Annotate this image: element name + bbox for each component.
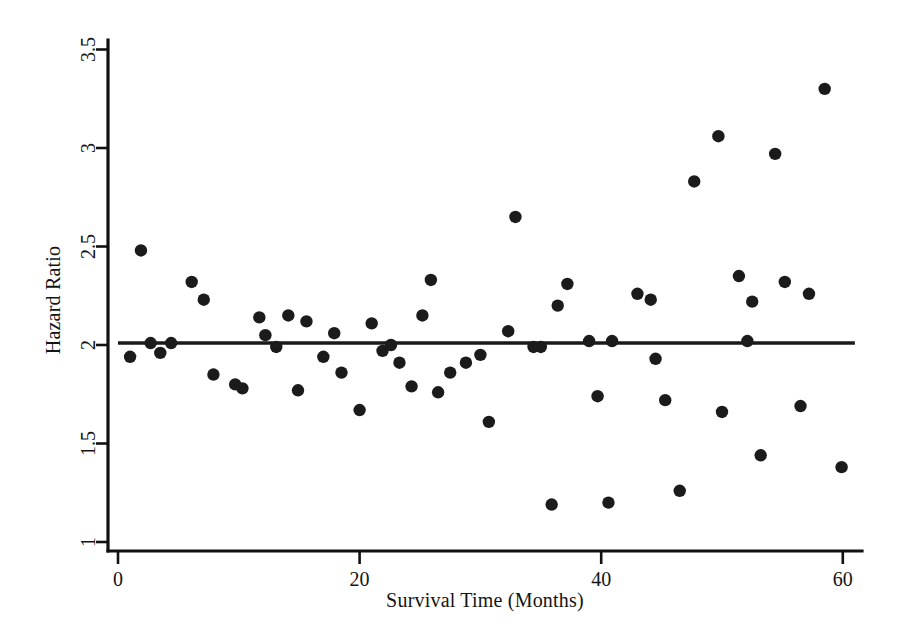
y-tick-label-1: 1 [77, 537, 99, 547]
data-point [416, 309, 428, 321]
data-point [794, 400, 806, 412]
data-point [460, 357, 472, 369]
data-point [365, 317, 377, 329]
data-point [509, 211, 521, 223]
data-point [769, 148, 781, 160]
data-point [835, 461, 847, 473]
data-point [144, 337, 156, 349]
y-axis-ticks: 11.522.533.5 [77, 37, 108, 547]
data-point [545, 498, 557, 510]
x-axis-title: Survival Time (Months) [386, 589, 584, 612]
data-points-group [124, 83, 848, 511]
data-point [282, 309, 294, 321]
data-point [561, 278, 573, 290]
data-point [741, 335, 753, 347]
data-point [754, 449, 766, 461]
data-point [535, 341, 547, 353]
data-point [474, 349, 486, 361]
data-point [733, 270, 745, 282]
data-point [688, 175, 700, 187]
data-point [353, 404, 365, 416]
data-point [393, 357, 405, 369]
data-point [606, 335, 618, 347]
x-tick-label-20: 20 [350, 568, 370, 590]
x-axis-ticks: 0204060 [113, 551, 853, 590]
data-point [236, 382, 248, 394]
data-point [259, 329, 271, 341]
data-point [328, 327, 340, 339]
data-point [425, 274, 437, 286]
data-point [385, 339, 397, 351]
data-point [292, 384, 304, 396]
data-point [602, 496, 614, 508]
data-point [803, 288, 815, 300]
data-point [154, 347, 166, 359]
data-point [165, 337, 177, 349]
data-point [300, 315, 312, 327]
data-point [444, 366, 456, 378]
data-point [432, 386, 444, 398]
data-point [674, 485, 686, 497]
x-tick-label-0: 0 [113, 568, 123, 590]
data-point [317, 351, 329, 363]
data-point [712, 130, 724, 142]
data-point [207, 368, 219, 380]
y-axis-title: Hazard Ratio [42, 246, 64, 354]
y-tick-label-2: 2 [77, 340, 99, 350]
data-point [335, 366, 347, 378]
data-point [818, 83, 830, 95]
data-point [746, 295, 758, 307]
data-point [135, 244, 147, 256]
y-tick-label-1.5: 1.5 [77, 431, 99, 456]
data-point [405, 380, 417, 392]
chart-figure: 11.522.533.5 0204060 Survival Time (Mont… [0, 0, 900, 630]
data-point [591, 390, 603, 402]
data-point [552, 299, 564, 311]
data-point [631, 288, 643, 300]
data-point [198, 293, 210, 305]
data-point [270, 341, 282, 353]
data-point [649, 353, 661, 365]
data-point [659, 394, 671, 406]
y-tick-label-2.5: 2.5 [77, 234, 99, 259]
data-point [185, 276, 197, 288]
data-point [502, 325, 514, 337]
data-point [779, 276, 791, 288]
scatter-plot-canvas: 11.522.533.5 0204060 Survival Time (Mont… [0, 0, 900, 630]
plot-axes [108, 40, 862, 551]
data-point [253, 311, 265, 323]
data-point [124, 351, 136, 363]
y-tick-label-3.5: 3.5 [77, 37, 99, 62]
data-point [583, 335, 595, 347]
x-tick-label-60: 60 [833, 568, 853, 590]
y-tick-label-3: 3 [77, 143, 99, 153]
data-point [483, 416, 495, 428]
x-tick-label-40: 40 [591, 568, 611, 590]
data-point [716, 406, 728, 418]
data-point [645, 293, 657, 305]
